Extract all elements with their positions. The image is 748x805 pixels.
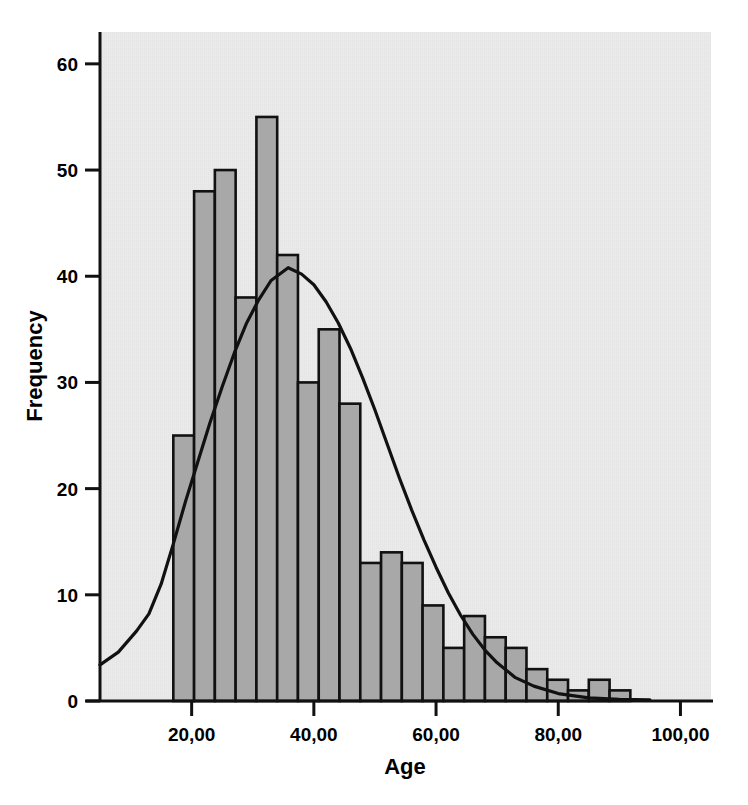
histogram-chart: 010203040506020,0040,0060,0080,00100,00 … [0,0,748,805]
histogram-bar [298,382,319,701]
histogram-bar [236,297,257,701]
y-axis-tick-label: 40 [57,266,78,287]
bars-group [173,117,630,701]
y-axis-tick-label: 0 [67,691,78,712]
histogram-bar [402,563,423,701]
y-axis-tick-label: 60 [57,54,78,75]
chart-canvas: 010203040506020,0040,0060,0080,00100,00 … [0,0,748,805]
x-axis-tick-label: 100,00 [651,724,709,745]
x-axis-title: Age [384,754,426,779]
histogram-bar [277,255,298,701]
histogram-bar [464,616,485,701]
histogram-bar [319,329,340,701]
y-axis-title: Frequency [22,310,47,422]
histogram-bar [506,648,527,701]
y-axis-tick-label: 50 [57,160,78,181]
x-axis-tick-label: 20,00 [168,724,216,745]
histogram-bar [381,552,402,701]
x-axis-tick-label: 60,00 [412,724,460,745]
x-axis-tick-label: 80,00 [534,724,582,745]
histogram-bar [215,170,236,701]
histogram-bar [194,191,215,701]
histogram-bar [256,117,277,701]
histogram-bar [443,648,464,701]
y-axis-tick-label: 10 [57,585,78,606]
y-axis-tick-label: 20 [57,479,78,500]
histogram-bar [340,404,361,701]
histogram-bar [173,436,194,701]
histogram-bar [423,605,444,701]
y-axis-tick-label: 30 [57,372,78,393]
histogram-bar [360,563,381,701]
x-axis-tick-label: 40,00 [290,724,338,745]
